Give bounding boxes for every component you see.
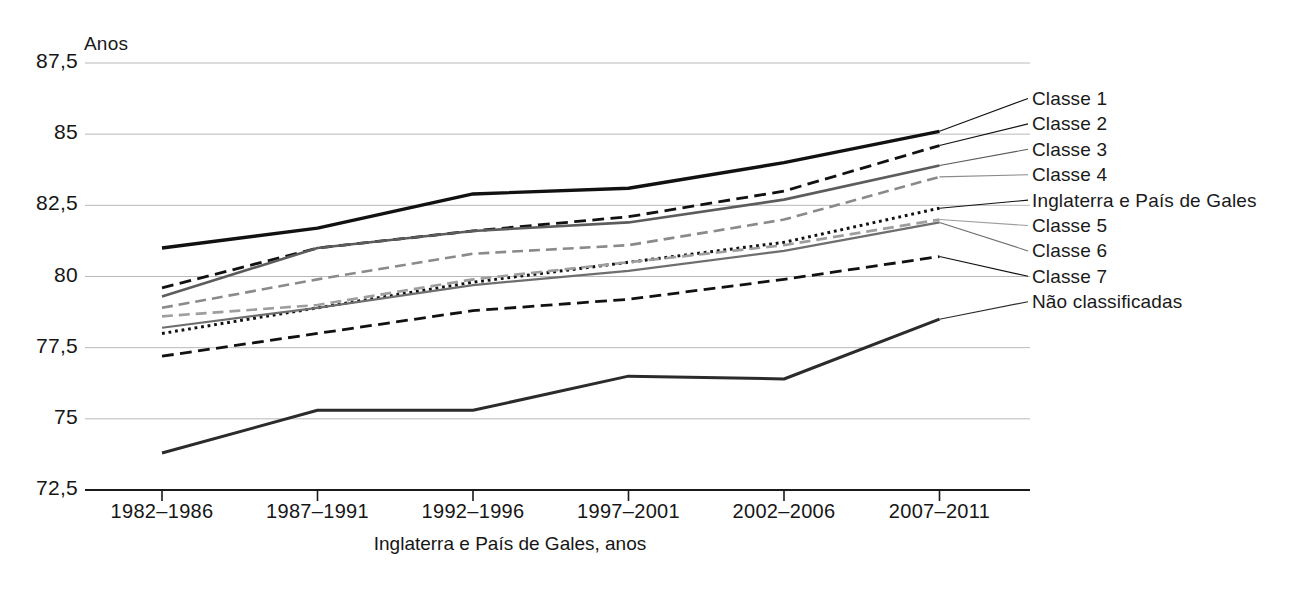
chart-legend: Classe 1Classe 2Classe 3Classe 4Inglater… <box>1032 86 1291 315</box>
chart-root: Anos 72,57577,58082,58587,5 1982–1986198… <box>0 0 1291 601</box>
legend-item: Classe 7 <box>1032 264 1291 289</box>
legend-leader-line <box>940 200 1029 208</box>
legend-item: Classe 3 <box>1032 137 1291 162</box>
x-axis-tick-label: 2002–2006 <box>733 500 836 523</box>
x-axis-tick-label: 1997–2001 <box>577 500 680 523</box>
legend-item: Classe 5 <box>1032 213 1291 238</box>
legend-leader-line <box>940 149 1029 165</box>
legend-item-label: Não classificadas <box>1032 291 1182 312</box>
legend-item-label: Classe 7 <box>1032 266 1107 287</box>
legend-leader-line <box>940 222 1029 250</box>
legend-item: Inglaterra e País de Gales <box>1032 188 1291 213</box>
legend-item-label: Classe 4 <box>1032 164 1107 185</box>
x-axis-title: Inglaterra e País de Gales, anos <box>0 533 1020 555</box>
series-line <box>162 177 940 308</box>
legend-leader-line <box>940 220 1029 226</box>
legend-item-label: Classe 3 <box>1032 139 1107 160</box>
legend-item-label: Classe 1 <box>1032 88 1107 109</box>
legend-item-label: Inglaterra e País de Gales <box>1032 190 1257 211</box>
series-line <box>162 131 940 248</box>
legend-leader-line <box>940 124 1029 146</box>
series-line <box>162 146 940 288</box>
legend-leader-line <box>940 257 1029 277</box>
legend-item: Classe 6 <box>1032 238 1291 263</box>
legend-item: Classe 4 <box>1032 162 1291 187</box>
x-axis-tick-label: 1982–1986 <box>111 500 214 523</box>
legend-item-label: Classe 5 <box>1032 215 1107 236</box>
x-axis-tick-label: 1992–1996 <box>422 500 525 523</box>
legend-item: Classe 2 <box>1032 111 1291 136</box>
x-axis-tick-label: 1987–1991 <box>266 500 369 523</box>
legend-item: Não classificadas <box>1032 289 1291 314</box>
legend-item: Classe 1 <box>1032 86 1291 111</box>
legend-item-label: Classe 2 <box>1032 113 1107 134</box>
legend-leader-line <box>940 99 1029 132</box>
x-axis-tick-label: 2007–2011 <box>889 500 990 523</box>
legend-leader-line <box>940 302 1029 320</box>
legend-leader-line <box>940 175 1029 177</box>
legend-item-label: Classe 6 <box>1032 240 1107 261</box>
